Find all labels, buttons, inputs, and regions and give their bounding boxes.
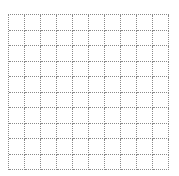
- grid-cell: [137, 31, 153, 47]
- grid-cell: [9, 31, 25, 47]
- grid-cell: [41, 124, 57, 140]
- grid-cell: [41, 62, 57, 78]
- grid-cell: [121, 93, 137, 109]
- grid-cell: [89, 93, 105, 109]
- grid-cell: [57, 46, 73, 62]
- grid-cell: [105, 108, 121, 124]
- grid-cell: [153, 15, 169, 31]
- grid-cell: [89, 62, 105, 78]
- grid-cell: [73, 46, 89, 62]
- grid-cell: [41, 31, 57, 47]
- grid-cell: [9, 124, 25, 140]
- grid-cell: [137, 108, 153, 124]
- grid-cell: [25, 155, 41, 171]
- grid-cell: [105, 139, 121, 155]
- grid-cell: [73, 31, 89, 47]
- grid-cell: [137, 139, 153, 155]
- grid-cell: [9, 62, 25, 78]
- grid-cell: [57, 155, 73, 171]
- grid-cell: [57, 62, 73, 78]
- grid-cell: [9, 139, 25, 155]
- grid-cell: [25, 31, 41, 47]
- grid-cell: [57, 77, 73, 93]
- grid-cell: [121, 139, 137, 155]
- grid-cell: [25, 93, 41, 109]
- grid-cell: [41, 139, 57, 155]
- grid-cell: [73, 124, 89, 140]
- grid-cell: [121, 155, 137, 171]
- grid-cell: [137, 155, 153, 171]
- grid-cell: [137, 124, 153, 140]
- grid-cell: [137, 46, 153, 62]
- grid-cell: [89, 108, 105, 124]
- grid-cell: [153, 93, 169, 109]
- grid-cell: [89, 139, 105, 155]
- grid-cell: [41, 108, 57, 124]
- grid-cell: [25, 62, 41, 78]
- grid-cell: [153, 139, 169, 155]
- grid-cell: [153, 108, 169, 124]
- grid-cell: [41, 155, 57, 171]
- grid-cell: [25, 77, 41, 93]
- grid-cell: [9, 108, 25, 124]
- grid-cell: [9, 46, 25, 62]
- grid-cell: [137, 15, 153, 31]
- grid-cell: [105, 124, 121, 140]
- grid-cell: [73, 155, 89, 171]
- grid-cell: [73, 15, 89, 31]
- grid-cell: [41, 77, 57, 93]
- grid-cell: [25, 139, 41, 155]
- grid-cell: [105, 46, 121, 62]
- grid-cell: [9, 155, 25, 171]
- grid-cell: [25, 46, 41, 62]
- grid-cell: [137, 62, 153, 78]
- grid-cell: [57, 124, 73, 140]
- grid-cell: [89, 31, 105, 47]
- grid-cell: [73, 62, 89, 78]
- grid-cell: [137, 93, 153, 109]
- grid-cell: [9, 15, 25, 31]
- grid-cell: [57, 139, 73, 155]
- grid-cell: [41, 15, 57, 31]
- grid-cell: [153, 77, 169, 93]
- grid-cell: [105, 93, 121, 109]
- grid-cell: [25, 108, 41, 124]
- grid-cell: [73, 93, 89, 109]
- grid-cell: [121, 31, 137, 47]
- grid-cell: [73, 108, 89, 124]
- grid-cell: [153, 124, 169, 140]
- grid-cell: [153, 62, 169, 78]
- grid-cell: [41, 93, 57, 109]
- grid-cell: [153, 46, 169, 62]
- grid-cell: [137, 77, 153, 93]
- grid-cell: [57, 15, 73, 31]
- grid-cell: [89, 15, 105, 31]
- grid-cell: [153, 155, 169, 171]
- dotted-grid: [8, 14, 169, 170]
- grid-cell: [105, 62, 121, 78]
- grid-cell: [9, 77, 25, 93]
- grid-cell: [153, 31, 169, 47]
- grid-cell: [89, 124, 105, 140]
- grid-cell: [105, 15, 121, 31]
- grid-cell: [121, 77, 137, 93]
- grid-cell: [121, 108, 137, 124]
- grid-cell: [89, 77, 105, 93]
- grid-cell: [105, 155, 121, 171]
- grid-cell: [9, 93, 25, 109]
- grid-cell: [73, 77, 89, 93]
- grid-cell: [121, 124, 137, 140]
- grid-cell: [105, 77, 121, 93]
- grid-cell: [121, 62, 137, 78]
- grid-cell: [89, 46, 105, 62]
- grid-cell: [57, 108, 73, 124]
- grid-cell: [121, 15, 137, 31]
- grid-cell: [25, 15, 41, 31]
- grid-cell: [41, 46, 57, 62]
- grid-cell: [73, 139, 89, 155]
- grid-cell: [121, 46, 137, 62]
- grid-cell: [89, 155, 105, 171]
- grid-cell: [25, 124, 41, 140]
- grid-cell: [57, 31, 73, 47]
- grid-cell: [57, 93, 73, 109]
